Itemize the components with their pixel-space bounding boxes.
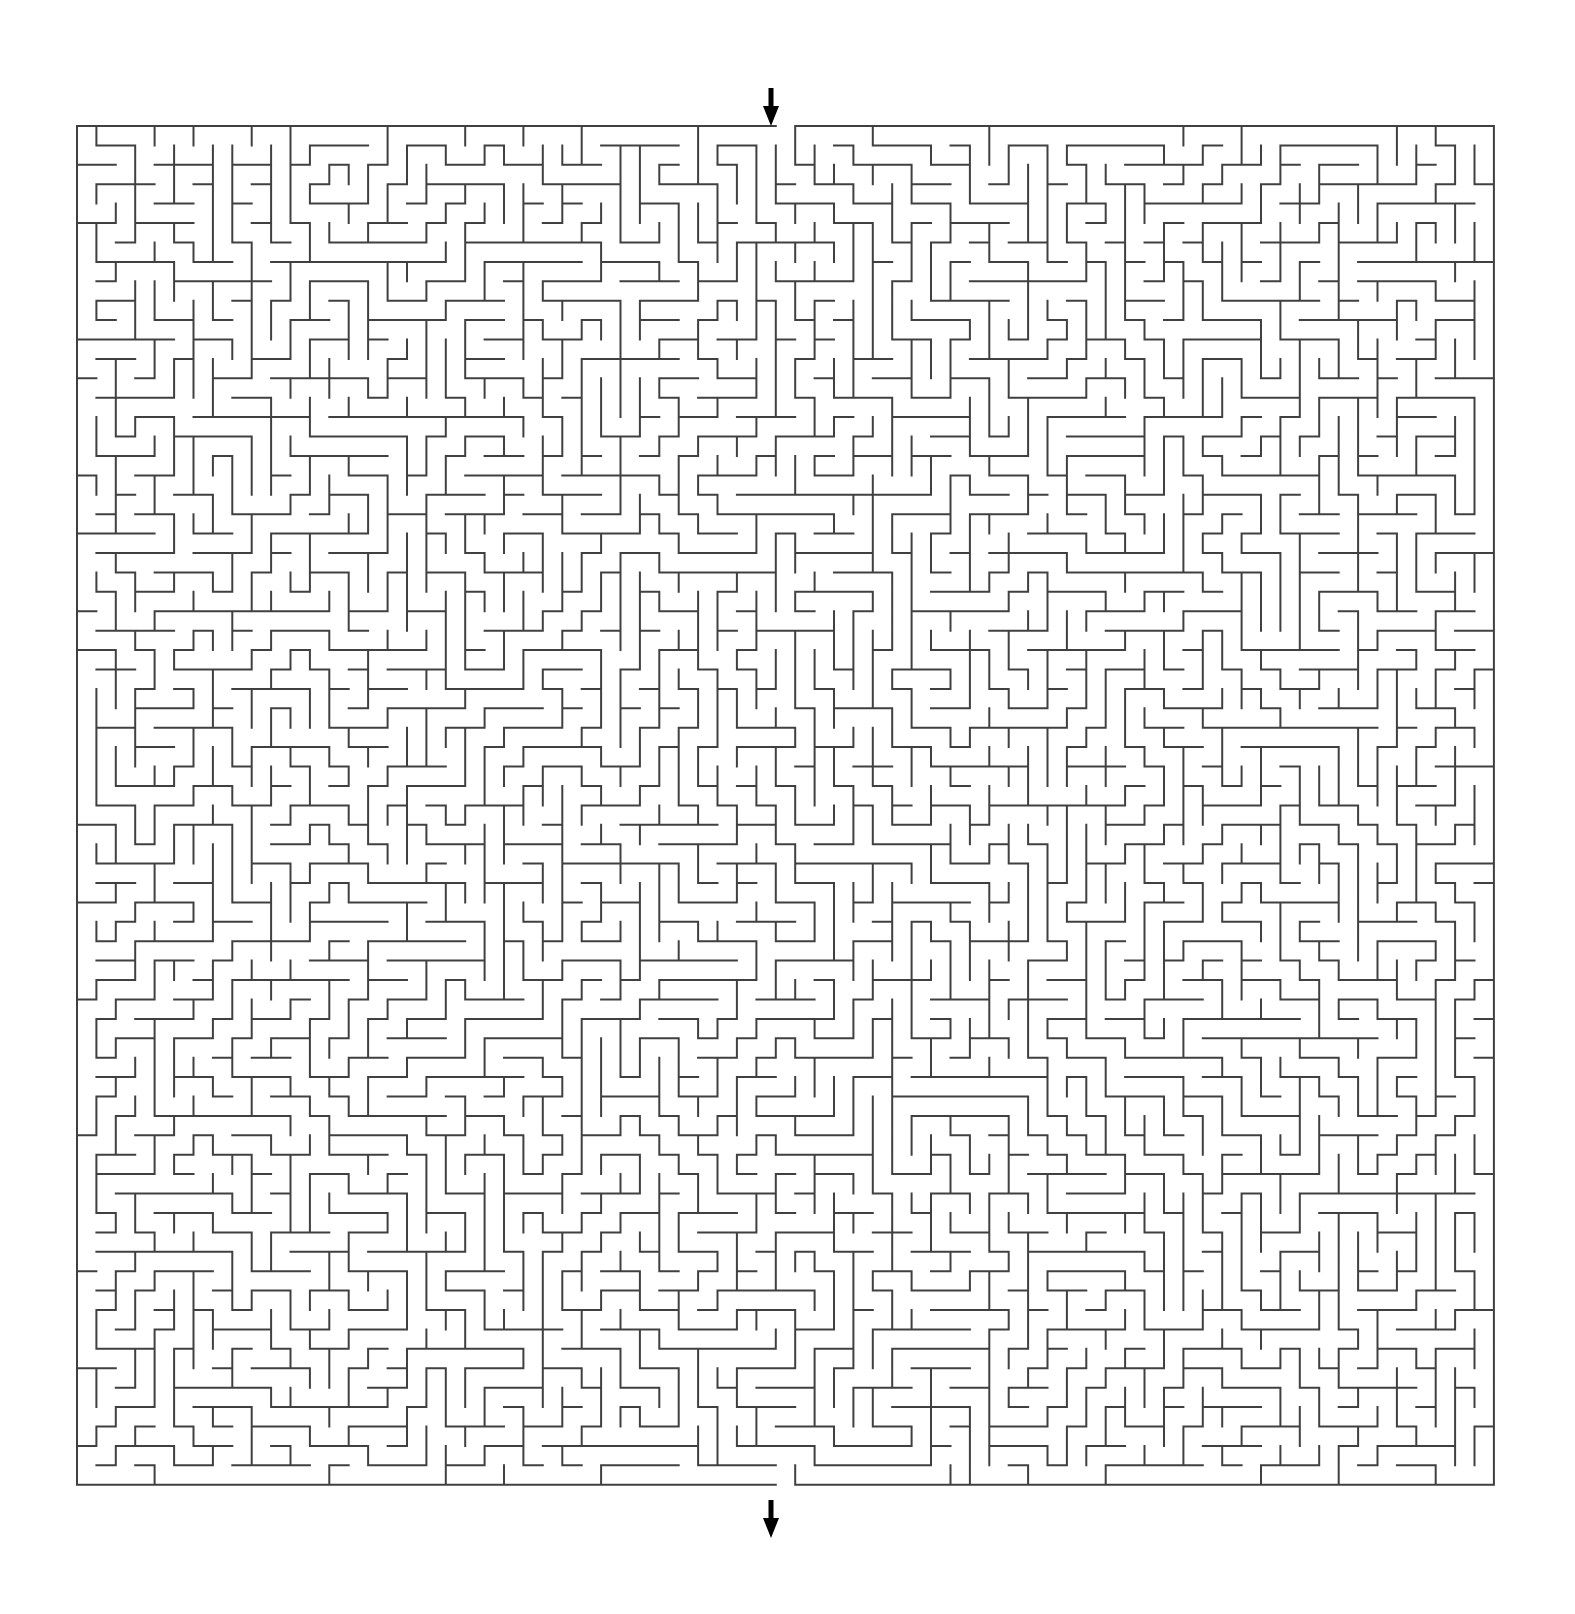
exit-arrow-icon-stem [769,1500,774,1520]
maze-page [0,0,1575,1614]
maze-canvas [0,0,1575,1614]
entrance-arrow-icon-stem [769,88,774,108]
